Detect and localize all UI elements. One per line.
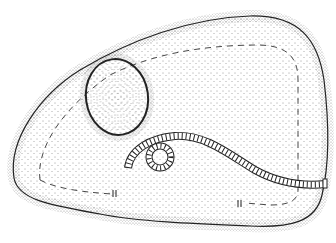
pad-outline — [13, 16, 327, 226]
illustration — [0, 0, 336, 243]
pad-drawing — [0, 0, 336, 243]
